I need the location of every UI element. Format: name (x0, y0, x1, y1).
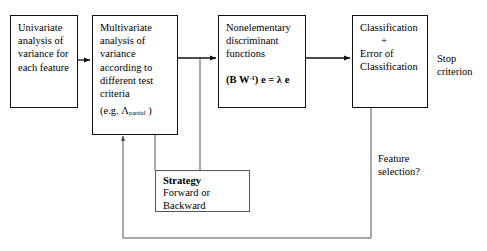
node-discriminant-functions[interactable]: Nonelementary discriminant functions (B … (218, 15, 306, 108)
node-classification[interactable]: Classification + Error of Classification (352, 15, 428, 108)
criterion-subscript: partial (129, 109, 146, 116)
node-strategy-line2: Forward or (163, 186, 244, 199)
flowchart-canvas: Univariate analysis of variance for each… (0, 0, 487, 251)
node-multivariate-criterion: (e.g. Λpartial ) (100, 104, 173, 119)
criterion-symbol: Λ (121, 105, 129, 116)
node-classification-plus: + (355, 34, 413, 47)
node-univariate-analysis[interactable]: Univariate analysis of variance for each… (10, 15, 78, 108)
criterion-prefix: (e.g. (100, 105, 121, 116)
node-multivariate-analysis[interactable]: Multivariate analysis of variance accord… (92, 15, 178, 135)
node-univariate-label: Univariate analysis of variance for each… (18, 21, 72, 74)
equation-lead: (B W (226, 74, 249, 85)
node-strategy-line3: Backward (163, 199, 244, 212)
criterion-suffix: ) (146, 105, 152, 116)
node-classification-line1: Classification (360, 21, 422, 34)
node-classification-line3: Error of (360, 47, 422, 60)
node-discriminant-equation: (B W-1) e = λ e (226, 71, 301, 86)
equation-tail: ) e = λ e (255, 74, 289, 85)
node-classification-line4: Classification (360, 60, 422, 73)
node-multivariate-label: Multivariate analysis of variance accord… (100, 21, 172, 100)
node-strategy[interactable]: Strategy Forward or Backward (155, 170, 250, 212)
node-discriminant-label: Nonelementary discriminant functions (226, 21, 300, 61)
label-feature-selection: Feature selection? (378, 152, 420, 178)
label-stop-criterion: Stop criterion (437, 52, 473, 78)
